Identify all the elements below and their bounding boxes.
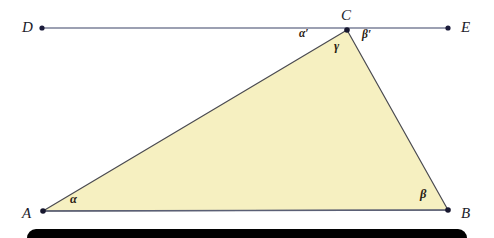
point-B-dot xyxy=(445,207,451,213)
vertex-label-E: E xyxy=(461,20,470,35)
point-C-dot xyxy=(344,27,350,33)
vertex-label-A: A xyxy=(22,206,31,221)
triangle-ABC xyxy=(43,30,448,211)
black-bar xyxy=(27,229,467,238)
vertex-label-B: B xyxy=(461,206,470,221)
vertex-label-C: C xyxy=(341,8,351,23)
point-E-dot xyxy=(445,25,450,30)
angle-label-alpha-prime: α′ xyxy=(299,28,309,40)
angle-label-beta: β xyxy=(420,188,426,201)
point-A-dot xyxy=(40,208,46,214)
angle-label-beta-prime: β′ xyxy=(362,29,371,41)
point-D-dot xyxy=(39,25,44,30)
angle-label-gamma: γ xyxy=(334,40,339,53)
vertex-label-D: D xyxy=(22,20,33,35)
angle-label-alpha: α xyxy=(70,193,77,206)
